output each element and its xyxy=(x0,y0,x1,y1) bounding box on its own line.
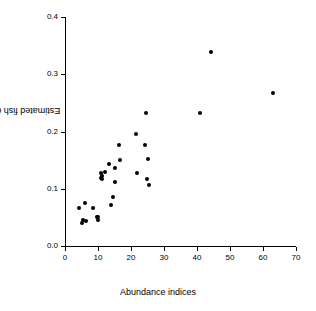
data-point xyxy=(100,177,104,181)
data-point xyxy=(198,111,202,115)
y-tick-label: 0.0 xyxy=(25,242,58,250)
data-point xyxy=(117,143,121,147)
data-point xyxy=(77,206,81,210)
y-tick-label: 0.4 xyxy=(25,13,58,21)
data-point xyxy=(109,203,113,207)
x-axis-title: Abundance indices xyxy=(0,288,316,297)
y-tick-mark xyxy=(61,17,65,18)
x-axis-line xyxy=(65,246,296,247)
y-tick-mark xyxy=(61,189,65,190)
data-point xyxy=(118,158,122,162)
data-point xyxy=(103,170,107,174)
data-point xyxy=(113,180,117,184)
data-point xyxy=(96,215,100,219)
data-point xyxy=(107,162,111,166)
data-point xyxy=(111,195,115,199)
x-tick-label: 70 xyxy=(276,254,316,262)
data-point xyxy=(91,206,95,210)
y-tick-label: 0.1 xyxy=(25,185,58,193)
data-point xyxy=(209,50,213,54)
y-tick-mark xyxy=(61,246,65,247)
x-tick-mark xyxy=(131,247,132,251)
data-point xyxy=(83,201,87,205)
x-tick-mark xyxy=(197,247,198,251)
y-tick-mark xyxy=(61,132,65,133)
x-tick-mark xyxy=(164,247,165,251)
data-point xyxy=(143,143,147,147)
data-point xyxy=(84,219,88,223)
y-axis-title: Estimated fish density xyxy=(0,106,137,115)
x-tick-mark xyxy=(230,247,231,251)
y-tick-mark xyxy=(61,74,65,75)
x-tick-mark xyxy=(65,247,66,251)
y-axis-line xyxy=(65,17,66,246)
data-point xyxy=(144,111,148,115)
plot-area: 0102030405060700.00.10.20.30.4 xyxy=(0,0,316,311)
y-tick-label: 0.2 xyxy=(25,128,58,136)
y-tick-label: 0.3 xyxy=(25,70,58,78)
data-point xyxy=(135,171,139,175)
data-point xyxy=(147,183,151,187)
x-tick-mark xyxy=(263,247,264,251)
data-point xyxy=(271,91,275,95)
data-point xyxy=(146,157,150,161)
data-point xyxy=(113,166,117,170)
data-point xyxy=(134,132,138,136)
scatter-plot-figure: 0102030405060700.00.10.20.30.4 Abundance… xyxy=(0,0,316,311)
x-tick-mark xyxy=(98,247,99,251)
data-point xyxy=(145,177,149,181)
x-tick-mark xyxy=(296,247,297,251)
